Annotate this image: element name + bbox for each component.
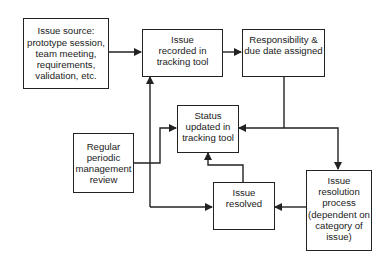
node-label: Issue recorded in tracking tool: [157, 30, 209, 68]
edge-responsibility-to-resolution: [284, 128, 338, 169]
node-label: Issue source: prototype session, team me…: [27, 25, 105, 81]
node-label: Status updated in tracking tool: [182, 106, 234, 144]
node-label: Issue resolution process (dependent on c…: [308, 171, 370, 242]
node-periodic-review: Regular periodic management review: [73, 133, 134, 193]
edge-review-to-status: [133, 128, 176, 163]
node-label: Regular periodic management review: [76, 141, 132, 186]
node-issue-resolved: Issue resolved: [213, 182, 275, 230]
node-issue-source: Issue source: prototype session, team me…: [23, 18, 109, 89]
node-resolution-process: Issue resolution process (dependent on c…: [306, 170, 372, 251]
node-issue-recorded: Issue recorded in tracking tool: [142, 29, 223, 77]
node-responsibility: Responsibility & due date assigned: [242, 29, 325, 77]
node-status-updated: Status updated in tracking tool: [177, 105, 239, 153]
edge-resolved-to-status: [208, 153, 243, 182]
node-label: Responsibility & due date assigned: [244, 30, 322, 56]
node-label: Issue resolved: [226, 183, 262, 209]
